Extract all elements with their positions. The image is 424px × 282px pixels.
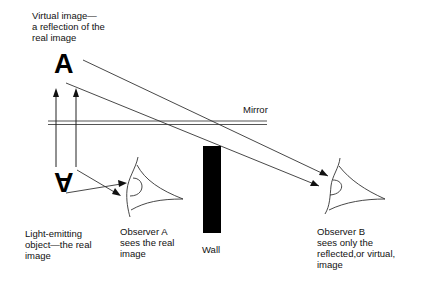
light-object-label: Light-emitting object—the real image: [25, 228, 92, 261]
projection-arrows: [53, 88, 79, 167]
mirror: [48, 121, 267, 125]
real-image-letter: A: [54, 168, 74, 195]
mirror-diagram: A A Virtual image— a reflection of the r…: [0, 0, 424, 282]
observer-a-eye-icon: [127, 157, 183, 217]
virtual-image-label: Virtual image— a reflection of the real …: [32, 10, 105, 43]
observer-a-label: Observer A sees the real image: [120, 226, 174, 259]
wall: [203, 146, 221, 233]
real-rays: [66, 170, 127, 196]
observer-b-eye-icon: [325, 158, 385, 214]
virtual-image-letter: A: [54, 51, 74, 78]
mirror-label: Mirror: [243, 104, 268, 115]
virtual-rays: [66, 60, 328, 186]
wall-label: Wall: [202, 244, 220, 255]
observer-b-label: Observer B sees only the reflected,or vi…: [317, 226, 395, 270]
